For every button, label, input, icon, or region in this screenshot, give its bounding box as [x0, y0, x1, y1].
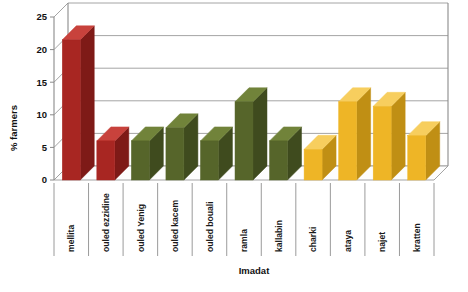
- category-label-ramla: ramla: [239, 229, 249, 252]
- y-tick-label-25: 25: [36, 11, 47, 22]
- bar-mellita: [62, 26, 94, 180]
- bar-side-face: [357, 88, 371, 180]
- category-label-kallabin: kallabin: [274, 220, 284, 252]
- bar-front-face: [304, 149, 322, 180]
- chart-canvas: 0510152025 mellitaouled ezzidineouled Ye…: [0, 0, 468, 292]
- bar-ramla: [235, 88, 267, 180]
- category-label-ouled-ezzidine: ouled ezzidine: [101, 193, 111, 252]
- bar-front-face: [166, 128, 184, 180]
- bar-ouled-kacem: [166, 114, 198, 180]
- y-tick-label-15: 15: [36, 77, 47, 88]
- bar-front-face: [339, 102, 357, 180]
- bar-front-face: [373, 106, 391, 180]
- category-label-ataya: ataya: [343, 230, 353, 252]
- bar-najet: [373, 92, 405, 180]
- bar-side-face: [391, 92, 405, 180]
- category-label-najet: najet: [377, 232, 387, 252]
- category-label-mellita: mellita: [66, 225, 76, 252]
- bar-chart-figure: 0510152025 mellitaouled ezzidineouled Ye…: [0, 0, 468, 292]
- category-label-kratten: kratten: [412, 223, 422, 252]
- y-tick-label-20: 20: [36, 44, 47, 55]
- y-tick-label-5: 5: [42, 142, 48, 153]
- x-axis-title: Imadat: [239, 265, 270, 276]
- category-label-ouled-kacem: ouled kacem: [170, 200, 180, 252]
- bar-front-face: [62, 40, 80, 180]
- y-axis-title: % farmers: [8, 105, 19, 151]
- y-tick-label-10: 10: [36, 109, 47, 120]
- bar-front-face: [97, 141, 115, 180]
- category-label-ouled-bouali: ouled bouali: [205, 201, 215, 252]
- bar-side-face: [253, 88, 267, 180]
- y-tick-label-0: 0: [42, 174, 47, 185]
- category-label-ouled-Yenig: ouled Yenig: [136, 204, 146, 252]
- bar-front-face: [408, 136, 426, 180]
- bar-ataya: [339, 88, 371, 180]
- bar-front-face: [270, 141, 288, 180]
- bar-side-face: [80, 26, 94, 180]
- category-label-charki: charki: [308, 227, 318, 252]
- bar-front-face: [235, 102, 253, 180]
- bar-front-face: [131, 141, 149, 180]
- bar-front-face: [200, 141, 218, 180]
